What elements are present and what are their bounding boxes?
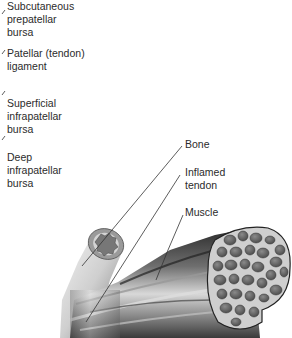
label-superficial-infrapatellar-bursa: Superficial infrapatellar bursa [7,97,62,136]
muscle-cross-section [207,227,290,329]
label-subcutaneous-prepatellar-bursa: Subcutaneous prepatellar bursa [7,0,74,39]
label-muscle: Muscle [185,206,218,219]
label-bone: Bone [185,138,210,151]
label-inflamed-tendon: Inflamed tendon [185,166,225,192]
label-patellar-ligament: Patellar (tendon) ligament [7,47,85,73]
label-deep-infrapatellar-bursa: Deep infrapatellar bursa [7,151,62,190]
